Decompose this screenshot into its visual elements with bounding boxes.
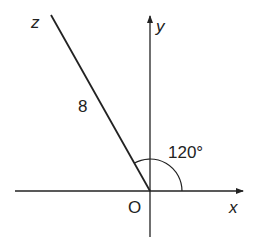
x-axis-label: x: [228, 198, 238, 217]
z-vector-line: [51, 15, 150, 191]
angle-label: 120°: [168, 143, 203, 162]
z-axis-label: z: [30, 13, 40, 32]
y-axis-label: y: [155, 17, 166, 36]
magnitude-label: 8: [78, 97, 87, 116]
diagram-canvas: z y x O 8 120°: [0, 0, 253, 250]
diagram-svg: z y x O 8 120°: [0, 0, 253, 250]
origin-label: O: [128, 198, 141, 217]
